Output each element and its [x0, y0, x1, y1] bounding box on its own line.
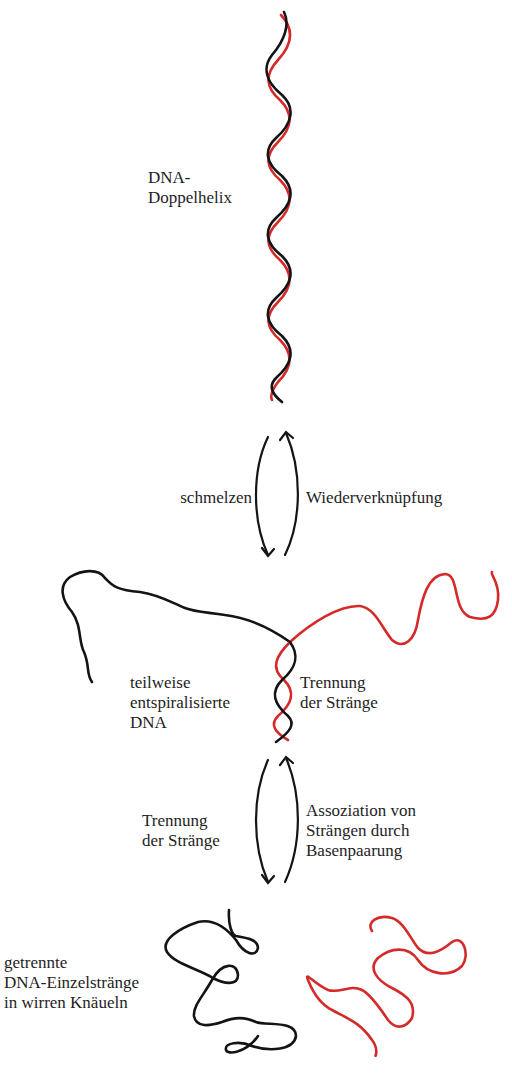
label-melt: schmelzen — [180, 488, 252, 508]
arrow-separate-down — [256, 760, 268, 882]
label-separated-coils: getrennte DNA-Einzelstränge in wirren Kn… — [4, 953, 139, 1013]
arrow-melt-down — [256, 437, 268, 555]
coil-red — [307, 917, 466, 1056]
free-strand-black — [63, 571, 290, 682]
arrow-reassociate-up — [285, 433, 298, 555]
label-line: der Stränge — [142, 831, 220, 851]
arrow-associate-up — [285, 758, 298, 882]
coil-black — [166, 910, 296, 1052]
label-double-helix: DNA- Doppelhelix — [148, 168, 232, 208]
double-helix — [267, 12, 291, 402]
label-strand-separation: Trennung der Stränge — [300, 673, 378, 713]
transition-arrows-1 — [256, 432, 298, 556]
label-line: Trennung — [142, 811, 220, 831]
label-line: Assoziation von — [306, 801, 416, 821]
label-line: DNA-Einzelstränge — [4, 973, 139, 993]
label-separate: Trennung der Stränge — [142, 811, 220, 851]
free-strand-red — [290, 572, 498, 644]
diagram-canvas — [0, 0, 512, 1073]
label-line: Trennung — [300, 673, 378, 693]
transition-arrows-2 — [256, 757, 298, 883]
label-reassociate: Wiederverknüpfung — [306, 488, 442, 508]
partially-unwound-dna — [63, 571, 499, 742]
label-line: teilweise — [130, 673, 230, 693]
label-line: DNA — [130, 713, 230, 733]
label-line: DNA- — [148, 168, 232, 188]
label-line: Strängen durch — [306, 821, 416, 841]
label-line: Doppelhelix — [148, 188, 232, 208]
label-partially-unwound: teilweise entspiralisierte DNA — [130, 673, 230, 733]
label-line: entspiralisierte — [130, 693, 230, 713]
label-line: Wiederverknüpfung — [306, 488, 442, 508]
label-line: schmelzen — [180, 488, 252, 508]
label-line: in wirren Knäueln — [4, 993, 139, 1013]
label-line: getrennte — [4, 953, 139, 973]
label-associate: Assoziation von Strängen durch Basenpaar… — [306, 801, 416, 861]
label-line: Basenpaarung — [306, 841, 416, 861]
label-line: der Stränge — [300, 693, 378, 713]
separated-strands — [166, 910, 466, 1056]
